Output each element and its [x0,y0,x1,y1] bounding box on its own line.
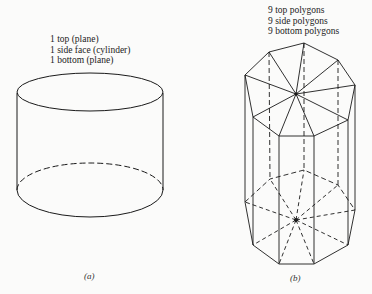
prism-bottom-back-hidden [245,170,355,210]
cylinder-bottom-front [17,190,163,217]
prism-bottom-center [295,219,298,222]
cylinder-figure [17,73,163,217]
figure-b-label-side: 9 side polygons [268,16,339,27]
figure-b-caption: (b) [290,273,301,283]
prism-figure [245,43,355,264]
figure-b-label-top: 9 top polygons [268,5,339,16]
figure-a-labels: 1 top (plane) 1 side face (cylinder) 1 b… [50,34,130,66]
figure-b-label-bottom: 9 bottom polygons [268,26,339,37]
figure-a-label-bottom: 1 bottom (plane) [50,55,130,66]
cylinder-bottom-back-hidden [17,163,163,190]
prism-top-spokes [245,43,355,136]
figure-a-label-side: 1 side face (cylinder) [50,45,130,56]
figure-a-label-top: 1 top (plane) [50,34,130,45]
prism-top-center [295,93,297,95]
prism-top-outline [245,43,355,136]
prism-bottom-front [245,202,355,264]
figure-a-caption: (a) [84,271,95,281]
cylinder-top-ellipse [17,73,163,111]
figure-b-labels: 9 top polygons 9 side polygons 9 bottom … [268,5,339,37]
